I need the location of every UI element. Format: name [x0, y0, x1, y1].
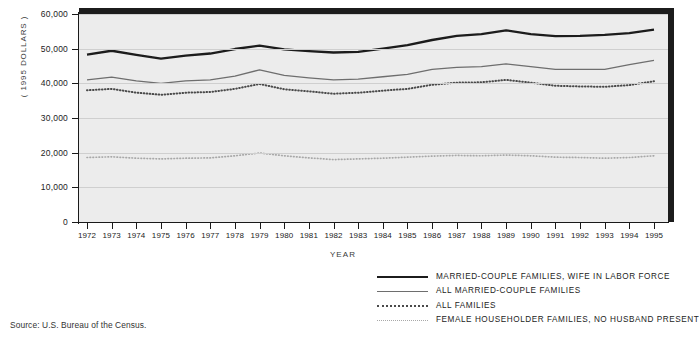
legend-item-label: MARRIED-COUPLE FAMILIES, WIFE IN LABOR F…	[436, 272, 670, 281]
legend-item-label: ALL MARRIED-COUPLE FAMILIES	[436, 286, 581, 295]
legend-item: MARRIED-COUPLE FAMILIES, WIFE IN LABOR F…	[374, 269, 686, 284]
x-tick-label: 1984	[374, 231, 392, 240]
gridline	[79, 153, 668, 154]
y-tick-label: 0	[22, 217, 68, 227]
y-tick-mark	[72, 222, 78, 223]
legend-item: ALL FAMILIES	[374, 298, 686, 313]
legend-item-label: ALL FAMILIES	[436, 301, 496, 310]
x-tick-mark	[580, 223, 581, 229]
y-axis-tick-labels: 010,00020,00030,00040,00050,00060,000	[20, 0, 68, 345]
x-tick-mark	[629, 223, 630, 229]
x-tick-mark	[210, 223, 211, 229]
x-tick-label: 1972	[78, 231, 96, 240]
x-tick-mark	[235, 223, 236, 229]
gridline	[79, 14, 668, 15]
x-tick-label: 1974	[127, 231, 145, 240]
series-line	[87, 153, 654, 160]
x-tick-label: 1982	[324, 231, 342, 240]
frame-shadow-right	[668, 8, 674, 222]
y-tick-mark	[72, 187, 78, 188]
line-sample-icon	[374, 286, 431, 296]
x-tick-mark	[555, 223, 556, 229]
x-tick-mark	[654, 223, 655, 229]
x-tick-label: 1989	[497, 231, 515, 240]
gridline	[79, 83, 668, 84]
x-tick-label: 1973	[103, 231, 121, 240]
source-note: Source: U.S. Bureau of the Census.	[10, 320, 147, 330]
series-line	[87, 30, 654, 59]
y-tick-label: 50,000	[22, 44, 68, 54]
x-tick-label: 1976	[176, 231, 194, 240]
x-tick-mark	[87, 223, 88, 229]
x-tick-mark	[605, 223, 606, 229]
x-tick-mark	[334, 223, 335, 229]
legend-item: ALL MARRIED-COUPLE FAMILIES	[374, 284, 686, 299]
x-tick-mark	[136, 223, 137, 229]
x-tick-label: 1979	[250, 231, 268, 240]
chart-legend: MARRIED-COUPLE FAMILIES, WIFE IN LABOR F…	[374, 269, 686, 327]
x-tick-label: 1985	[398, 231, 416, 240]
legend-item-label: FEMALE HOUSEHOLDER FAMILIES, NO HUSBAND …	[436, 315, 699, 324]
line-sample-icon	[374, 271, 431, 281]
x-tick-mark	[260, 223, 261, 229]
x-tick-label: 1990	[522, 231, 540, 240]
y-tick-mark	[72, 14, 78, 15]
x-tick-mark	[161, 223, 162, 229]
x-tick-label: 1993	[596, 231, 614, 240]
x-tick-label: 1986	[423, 231, 441, 240]
y-tick-label: 60,000	[22, 9, 68, 19]
line-sample-icon	[374, 315, 431, 325]
x-tick-mark	[186, 223, 187, 229]
gridline	[79, 49, 668, 50]
gridline	[79, 187, 668, 188]
x-axis-title: YEAR	[0, 250, 686, 259]
x-tick-label: 1981	[300, 231, 318, 240]
y-tick-mark	[72, 153, 78, 154]
x-tick-label: 1991	[546, 231, 564, 240]
x-tick-mark	[309, 223, 310, 229]
y-tick-mark	[72, 83, 78, 84]
x-tick-mark	[481, 223, 482, 229]
x-tick-mark	[506, 223, 507, 229]
line-sample-icon	[374, 300, 431, 310]
x-tick-mark	[432, 223, 433, 229]
x-tick-mark	[457, 223, 458, 229]
x-tick-label: 1992	[571, 231, 589, 240]
legend-item: FEMALE HOUSEHOLDER FAMILIES, NO HUSBAND …	[374, 313, 686, 328]
y-tick-label: 40,000	[22, 78, 68, 88]
x-tick-label: 1995	[645, 231, 663, 240]
x-tick-label: 1977	[201, 231, 219, 240]
x-tick-mark	[284, 223, 285, 229]
x-tick-label: 1980	[275, 231, 293, 240]
x-tick-label: 1987	[448, 231, 466, 240]
y-tick-label: 10,000	[22, 182, 68, 192]
x-tick-mark	[407, 223, 408, 229]
x-tick-label: 1978	[226, 231, 244, 240]
x-tick-mark	[383, 223, 384, 229]
x-tick-label: 1994	[620, 231, 638, 240]
y-tick-mark	[72, 118, 78, 119]
x-tick-label: 1983	[349, 231, 367, 240]
y-tick-mark	[72, 49, 78, 50]
plot-area	[79, 14, 668, 222]
series-line	[87, 60, 654, 83]
y-tick-label: 20,000	[22, 148, 68, 158]
y-tick-label: 30,000	[22, 113, 68, 123]
gridline	[79, 118, 668, 119]
x-tick-label: 1975	[152, 231, 170, 240]
x-tick-label: 1988	[472, 231, 490, 240]
x-tick-mark	[531, 223, 532, 229]
x-tick-mark	[358, 223, 359, 229]
x-tick-mark	[112, 223, 113, 229]
